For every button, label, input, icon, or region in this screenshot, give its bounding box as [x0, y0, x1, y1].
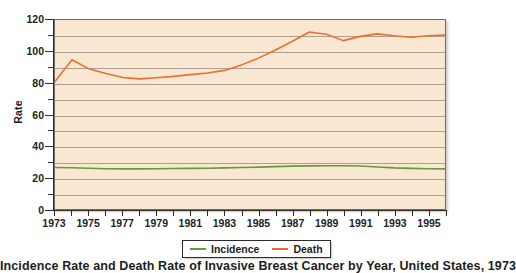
y-tick-minor: [48, 162, 54, 163]
x-tick-label: 1991: [349, 217, 372, 229]
x-tick-label: 1993: [383, 217, 406, 229]
x-tick-label: 1983: [213, 217, 236, 229]
y-tick-major: [45, 19, 54, 20]
y-tick-minor: [48, 194, 54, 195]
y-tick-label: 20: [4, 173, 44, 183]
x-tick: [54, 211, 55, 216]
x-tick: [344, 211, 345, 216]
y-tick-major: [45, 178, 54, 179]
y-tick-major: [45, 146, 54, 147]
x-axis-line: [53, 210, 447, 211]
x-tick: [378, 211, 379, 216]
legend-item-incidence: Incidence: [190, 243, 259, 255]
x-tick-label: 1979: [145, 217, 168, 229]
chart-legend: Incidence Death: [182, 240, 331, 258]
y-tick-major: [45, 115, 54, 116]
x-tick: [190, 211, 191, 216]
y-tick-minor: [48, 67, 54, 68]
y-axis-title: Rate: [12, 82, 24, 142]
x-tick: [156, 211, 157, 216]
x-tick: [327, 211, 328, 216]
x-tick: [446, 211, 447, 216]
x-tick: [276, 211, 277, 216]
x-tick: [429, 211, 430, 216]
legend-label-death: Death: [293, 243, 322, 255]
y-tick-minor: [48, 99, 54, 100]
figure-caption: Incidence Rate and Death Rate of Invasiv…: [0, 259, 468, 273]
x-tick: [259, 211, 260, 216]
y-tick-label: 100: [4, 46, 44, 56]
x-tick: [122, 211, 123, 216]
series-line-incidence: [55, 166, 445, 169]
x-tick-label: 1995: [417, 217, 440, 229]
y-tick-label: 40: [4, 141, 44, 151]
legend-swatch-death: [272, 248, 288, 250]
series-line-death: [55, 32, 445, 81]
plot-area: [54, 19, 446, 210]
legend-label-incidence: Incidence: [211, 243, 259, 255]
x-tick-label: 1987: [281, 217, 304, 229]
legend-item-death: Death: [272, 243, 322, 255]
y-tick-major: [45, 51, 54, 52]
x-tick: [173, 211, 174, 216]
x-tick-label: 1985: [247, 217, 270, 229]
y-tick-label: 0: [4, 205, 44, 215]
x-tick-label: 1981: [179, 217, 202, 229]
y-tick-minor: [48, 130, 54, 131]
y-tick-major: [45, 83, 54, 84]
x-tick-label: 1975: [76, 217, 99, 229]
x-tick: [207, 211, 208, 216]
x-tick: [310, 211, 311, 216]
x-tick: [242, 211, 243, 216]
y-tick-minor: [48, 35, 54, 36]
x-tick: [105, 211, 106, 216]
x-tick-label: 1989: [315, 217, 338, 229]
x-tick: [139, 211, 140, 216]
x-tick: [293, 211, 294, 216]
x-tick: [412, 211, 413, 216]
y-tick-label: 120: [4, 14, 44, 24]
series-canvas: [55, 20, 445, 209]
x-tick: [224, 211, 225, 216]
y-tick-label: 60: [4, 110, 44, 120]
x-tick-label: 1973: [42, 217, 65, 229]
x-tick: [88, 211, 89, 216]
x-tick: [361, 211, 362, 216]
y-tick-label: 80: [4, 78, 44, 88]
x-tick: [395, 211, 396, 216]
legend-swatch-incidence: [190, 248, 206, 250]
x-tick-label: 1977: [111, 217, 134, 229]
x-tick: [71, 211, 72, 216]
